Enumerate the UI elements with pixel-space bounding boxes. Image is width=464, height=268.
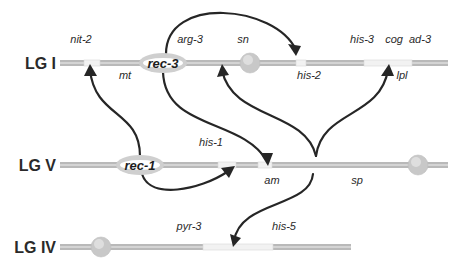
- arrowhead-icon: [288, 44, 301, 56]
- arrow-rec-1-to-target: [142, 172, 227, 190]
- regulation-arrows: [84, 13, 394, 247]
- rec-label: rec-1: [124, 158, 155, 173]
- linkage-group-lg-v: LG V: [19, 155, 448, 175]
- gene-label-sn: sn: [237, 33, 249, 45]
- rec-locus-rec-3: rec-3: [139, 53, 187, 73]
- gene-label-his-2: his-2: [297, 69, 321, 81]
- gene-label-pyr-3: pyr-3: [176, 220, 203, 232]
- linkage-group-label: LG I: [25, 55, 56, 72]
- chromosome-segment: [84, 60, 100, 66]
- gene-label-his-1: his-1: [199, 136, 223, 148]
- rec-label: rec-3: [147, 56, 179, 71]
- gene-label-nit-2: nit-2: [70, 33, 91, 45]
- centromere-highlight: [243, 55, 253, 65]
- linkage-group-label: LG IV: [14, 239, 56, 256]
- gene-label-lpl: lpl: [396, 69, 408, 81]
- recombination-diagram: LG ILG VLG IV rec-3rec-1 nit-2mtarg-3snh…: [0, 0, 464, 268]
- arrowhead-icon: [221, 166, 235, 178]
- arrow-rec-2-to-target: [222, 70, 316, 156]
- centromere-highlight: [94, 239, 104, 249]
- gene-label-mt: mt: [119, 69, 132, 81]
- chromosome-segment: [258, 162, 272, 168]
- centromere-highlight: [411, 157, 421, 167]
- chromosome-segment: [203, 244, 273, 250]
- gene-label-arg-3: arg-3: [177, 33, 204, 45]
- rec-locus-rec-1: rec-1: [116, 155, 164, 175]
- chromosome-segment: [296, 60, 306, 66]
- linkage-group-lg-iv: LG IV: [14, 237, 351, 257]
- linkage-group-label: LG V: [19, 157, 57, 174]
- gene-label-am: am: [264, 174, 279, 186]
- gene-label-ad-3: ad-3: [409, 33, 432, 45]
- arrow-rec-2-to-target: [316, 70, 388, 156]
- arrow-rec-1-to-target: [90, 70, 140, 156]
- gene-label-his-5: his-5: [272, 220, 297, 232]
- gene-label-cog: cog: [385, 33, 404, 45]
- gene-label-sp: sp: [351, 174, 363, 186]
- gene-label-his-3: his-3: [350, 33, 375, 45]
- chromosome-segment: [364, 60, 412, 66]
